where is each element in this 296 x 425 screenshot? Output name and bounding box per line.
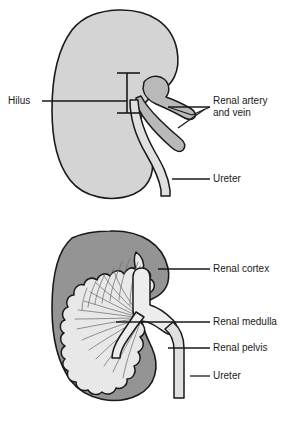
label-renal-cortex: Renal cortex xyxy=(213,263,269,274)
label-hilus: Hilus xyxy=(8,95,30,106)
kidney-diagram-canvas: Hilus Renal artery and vein Ureter xyxy=(0,0,296,425)
label-renal-artery-and-vein-line1: Renal artery xyxy=(213,95,267,106)
label-ureter-sectional: Ureter xyxy=(213,370,241,381)
label-renal-medulla: Renal medulla xyxy=(213,316,277,327)
label-renal-artery-and-vein-line2: and vein xyxy=(213,107,251,118)
label-ureter-external: Ureter xyxy=(213,173,241,184)
kidney-anatomy-figure: Hilus Renal artery and vein Ureter xyxy=(0,0,296,425)
label-renal-pelvis: Renal pelvis xyxy=(213,342,267,353)
